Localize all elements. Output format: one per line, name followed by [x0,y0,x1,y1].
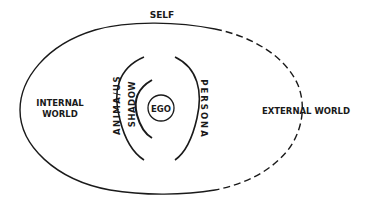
shadow-label: SHADOW [127,81,137,128]
shadow-arc [136,80,152,138]
psyche-diagram: SELF INTERNAL WORLD EXTERNAL WORLD EGO A… [0,0,373,207]
ego-label: EGO [151,104,171,114]
internal-world-label-line1: INTERNAL [36,98,84,108]
external-world-label: EXTERNAL WORLD [262,106,350,116]
internal-world-label-line2: WORLD [42,109,78,119]
anima-animus-label: ANIMA/US [112,75,122,135]
persona-arc [175,57,199,160]
persona-label: PERSONA [199,79,209,139]
self-label: SELF [150,10,175,20]
